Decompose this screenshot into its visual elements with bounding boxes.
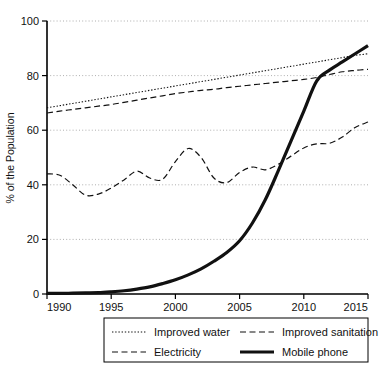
y-axis-title: % of the Population bbox=[4, 112, 16, 203]
x-tick-label: 1995 bbox=[99, 301, 123, 313]
axes bbox=[47, 21, 368, 294]
series-line-improved-water bbox=[47, 54, 368, 108]
x-tick-label: 2015 bbox=[344, 301, 368, 313]
line-chart: 020406080100 199019952000200520102015 % … bbox=[0, 0, 386, 367]
x-tick-label: 2000 bbox=[163, 301, 187, 313]
y-axis-tick-labels: 020406080100 bbox=[21, 15, 39, 300]
legend: Improved waterImproved sanitationElectri… bbox=[104, 318, 378, 362]
legend-label: Electricity bbox=[154, 346, 202, 358]
legend-label: Improved water bbox=[154, 326, 230, 338]
x-tick-label: 2010 bbox=[292, 301, 316, 313]
y-tick-label: 80 bbox=[27, 70, 39, 82]
chart-container: 020406080100 199019952000200520102015 % … bbox=[0, 0, 386, 367]
y-tick-label: 100 bbox=[21, 15, 39, 27]
gridlines bbox=[47, 21, 368, 239]
y-tick-label: 60 bbox=[27, 124, 39, 136]
legend-label: Improved sanitation bbox=[282, 326, 378, 338]
axis-lines bbox=[47, 21, 368, 294]
y-tick-label: 20 bbox=[27, 233, 39, 245]
x-tick-label: 1990 bbox=[47, 301, 71, 313]
legend-label: Mobile phone bbox=[282, 346, 348, 358]
series-lines bbox=[47, 46, 368, 294]
x-axis-tick-labels: 199019952000200520102015 bbox=[47, 301, 368, 313]
y-tick-label: 0 bbox=[33, 288, 39, 300]
x-tick-label: 2005 bbox=[227, 301, 251, 313]
series-line-mobile-phone bbox=[47, 46, 368, 294]
y-tick-label: 40 bbox=[27, 179, 39, 191]
